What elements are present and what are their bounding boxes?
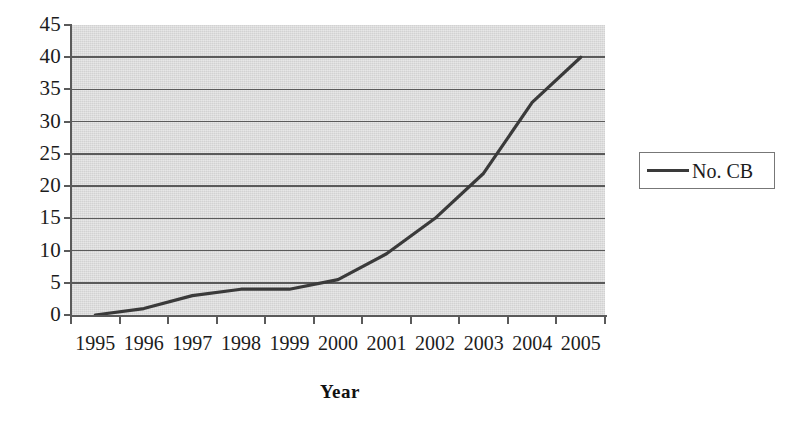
y-tick-mark (64, 153, 71, 155)
y-tick-mark (64, 24, 71, 26)
x-tick-mark (458, 316, 460, 324)
x-axis-title: Year (0, 381, 680, 403)
x-tick-mark (507, 316, 509, 324)
x-tick-mark (313, 316, 315, 324)
legend: No. CB (639, 152, 775, 189)
x-tick-mark (410, 316, 412, 324)
x-tick-mark (119, 316, 121, 324)
y-tick-mark (64, 88, 71, 90)
x-tick-mark (604, 316, 606, 324)
x-tick-label: 2005 (553, 332, 609, 354)
x-tick-mark (167, 316, 169, 324)
x-tick-mark (555, 316, 557, 324)
legend-entry-label: No. CB (692, 161, 753, 181)
legend-line-swatch-icon (647, 169, 689, 172)
y-tick-mark (64, 56, 71, 58)
line-chart: 051015202530354045 199519961997199819992… (0, 0, 803, 421)
y-tick-label: 5 (21, 272, 61, 293)
y-axis-line (70, 24, 72, 317)
y-tick-label: 40 (21, 46, 61, 67)
x-tick-mark (216, 316, 218, 324)
plot-area (71, 25, 605, 315)
x-axis-line (70, 315, 607, 317)
y-tick-label: 15 (21, 207, 61, 228)
y-tick-label: 30 (21, 111, 61, 132)
y-tick-mark (64, 217, 71, 219)
y-tick-label: 10 (21, 240, 61, 261)
y-tick-label: 45 (21, 14, 61, 35)
y-tick-label: 35 (21, 78, 61, 99)
y-tick-mark (64, 185, 71, 187)
y-tick-label: 20 (21, 175, 61, 196)
x-tick-mark (361, 316, 363, 324)
x-tick-mark (264, 316, 266, 324)
y-tick-label: 25 (21, 143, 61, 164)
series-line-no-cb (71, 25, 605, 315)
y-tick-mark (64, 282, 71, 284)
x-tick-mark (70, 316, 72, 324)
y-tick-label: 0 (21, 304, 61, 325)
y-tick-mark (64, 121, 71, 123)
y-tick-mark (64, 250, 71, 252)
